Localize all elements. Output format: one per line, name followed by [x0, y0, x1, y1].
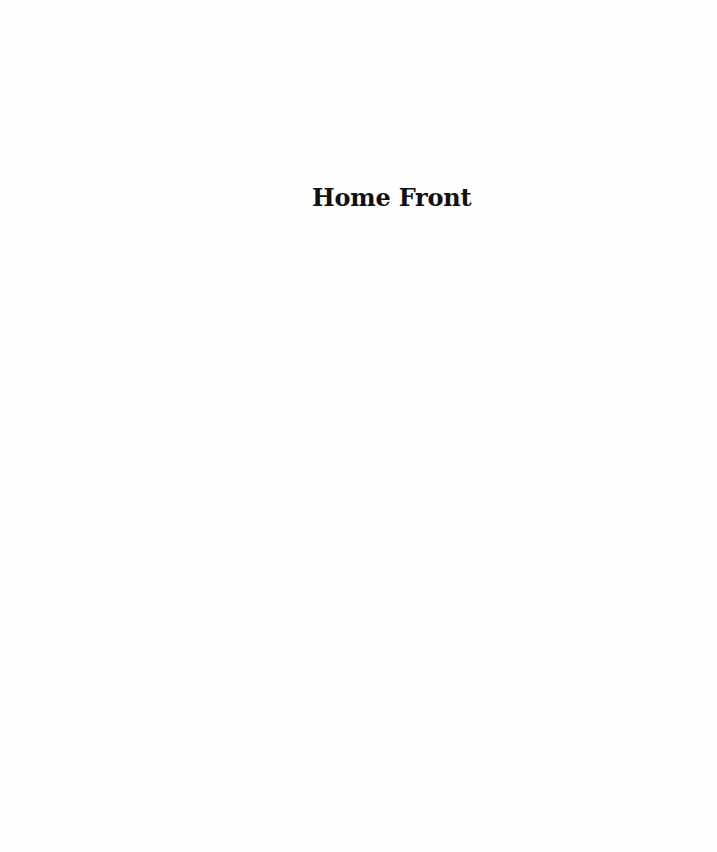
document-page: Home Front	[0, 0, 717, 852]
page-title: Home Front	[312, 180, 472, 216]
